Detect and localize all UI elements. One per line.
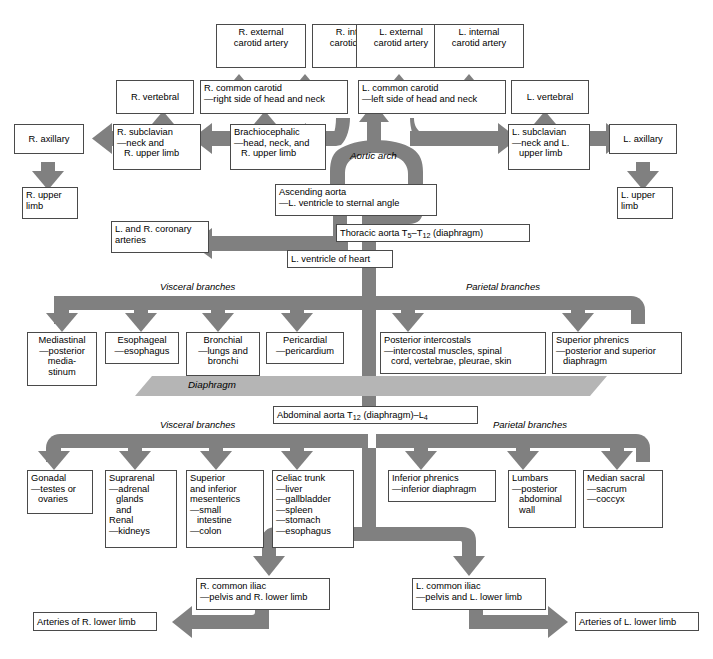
node-lumbars[interactable]: Lumbars —posterior abdominal wall (508, 470, 576, 528)
node-line: —spleen (276, 505, 350, 516)
node-title: R. common carotid (204, 83, 282, 93)
node-title: Arteries of L. lower limb (579, 617, 676, 627)
node-line: and (109, 505, 173, 516)
coronary-arrow-bar (211, 236, 345, 251)
superior-phrenics-arrowhead (562, 313, 594, 332)
bifurcation-to-l-iliac (376, 527, 476, 556)
node-title: Pericardial (283, 335, 327, 345)
node-superior-phrenics[interactable]: Superior phrenics —posterior and superio… (552, 332, 682, 374)
node-line: glands (109, 494, 173, 505)
node-r-common-carotid[interactable]: R. common carotid —right side of head an… (200, 80, 348, 114)
node-l-common-iliac[interactable]: L. common iliac —pelvis and L. lower lim… (412, 578, 546, 610)
node-mediastinal[interactable]: Mediastinal —posterior media- stinum (27, 332, 97, 386)
node-inferior-phrenics[interactable]: Inferior phrenics —inferior diaphragm (388, 470, 496, 502)
node-posterior-intercostals[interactable]: Posterior intercostals —intercostal musc… (380, 332, 546, 374)
median-sacral-arrowhead (601, 451, 633, 470)
node-ascending-aorta[interactable]: Ascending aorta —L. ventricle to sternal… (275, 184, 437, 216)
node-esophageal[interactable]: Esophageal —esophagus (105, 332, 179, 364)
node-title: L. internal (459, 27, 500, 37)
node-r-upper-limb[interactable]: R. upper limb (22, 187, 78, 219)
node-mesenterics[interactable]: Superior and inferior mesenterics —small… (186, 470, 264, 548)
node-l-common-carotid[interactable]: L. common carotid —left side of head and… (358, 80, 506, 114)
node-line: cord, vertebrae, pleurae, skin (384, 356, 542, 367)
node-title: Lumbars (512, 473, 548, 483)
node-r-external-carotid[interactable]: R. external carotid artery (216, 24, 306, 68)
node-thoracic-aorta[interactable]: Thoracic aorta T5–T12 (diaphragm) (336, 224, 530, 242)
node-title: R. axillary (29, 134, 70, 145)
mediastinal-arrowhead (46, 313, 78, 332)
node-line: —intercostal muscles, spinal (384, 346, 542, 357)
node-line: intestine (190, 515, 260, 526)
node-line: stinum (31, 367, 93, 378)
node-line: —L. ventricle to sternal angle (279, 198, 433, 209)
node-line: arteries (115, 235, 205, 246)
inferior-phrenics-arrowhead (405, 451, 437, 470)
node-median-sacral[interactable]: Median sacral —sacrum —coccyx (583, 470, 663, 528)
node-line: —colon (190, 526, 260, 537)
node-line: —liver (276, 484, 350, 495)
node-l-lower-limb-arteries[interactable]: Arteries of L. lower limb (575, 612, 699, 631)
r-iliac-down-stub (255, 610, 269, 629)
node-r-subclavian[interactable]: R. subclavian —neck and R. upper limb (113, 124, 201, 170)
node-line: —small (190, 505, 260, 516)
node-l-vertebral[interactable]: L. vertebral (511, 80, 589, 114)
node-l-axillary[interactable]: L. axillary (609, 124, 677, 154)
node-pericardial[interactable]: Pericardial —pericardium (266, 332, 344, 364)
node-title: Suprarenal (109, 473, 154, 483)
lumbars-arrowhead (507, 451, 539, 470)
label-visceral-branches-abdominal: Visceral branches (160, 419, 235, 430)
node-l-ventricle-of-heart[interactable]: L. ventricle of heart (287, 250, 393, 268)
lsub-to-lax-bar (588, 131, 608, 146)
node-line: —head, neck, and (234, 138, 322, 149)
node-title: Mediastinal (38, 335, 85, 345)
node-coronary-arteries[interactable]: L. and R. coronary arteries (111, 221, 209, 253)
node-title: Inferior phrenics (392, 473, 459, 483)
node-r-vertebral[interactable]: R. vertebral (116, 80, 194, 114)
node-line: —pelvis and L. lower limb (416, 592, 542, 603)
node-line: —pelvis and R. lower limb (200, 592, 326, 603)
node-r-axillary[interactable]: R. axillary (14, 124, 84, 154)
node-title: L. common carotid (362, 83, 438, 93)
rsub-to-rax-arrowhead (92, 123, 112, 154)
node-line: —stomach (276, 515, 350, 526)
celiac-arrowhead (281, 451, 313, 470)
node-title: Arteries of R. lower limb (37, 617, 136, 627)
brachio-to-rsub-bar (210, 131, 230, 146)
label-parietal-branches-thoracic: Parietal branches (466, 281, 540, 292)
node-line: —pericardium (270, 346, 340, 357)
node-gonadal[interactable]: Gonadal —testes or ovaries (27, 470, 93, 514)
node-title: L. subclavian (512, 127, 566, 137)
node-l-upper-limb[interactable]: L. upper limb (617, 187, 673, 219)
node-r-lower-limb-arteries[interactable]: Arteries of R. lower limb (33, 612, 157, 631)
node-title: Bronchial (204, 335, 243, 345)
node-title: R. upper (26, 190, 62, 200)
mesenterics-arrowhead (200, 451, 232, 470)
node-title: Esophageal (117, 335, 166, 345)
node-title: L. and R. coronary (115, 224, 191, 234)
node-l-subclavian[interactable]: L. subclavian —neck and L. upper limb (508, 124, 590, 170)
node-line: wall (512, 505, 572, 516)
esophageal-arrowhead (125, 313, 157, 332)
node-line: bronchi (190, 356, 256, 367)
node-brachiocephalic[interactable]: Brachiocephalic —head, neck, and R. uppe… (230, 124, 326, 170)
node-line: —adrenal (109, 484, 173, 495)
node-line: —left side of head and neck (362, 94, 502, 105)
aorta-column-lower (362, 448, 376, 541)
node-title: Brachiocephalic (234, 127, 300, 137)
label-visceral-branches-thoracic: Visceral branches (160, 281, 235, 292)
node-r-common-iliac[interactable]: R. common iliac —pelvis and R. lower lim… (196, 578, 330, 610)
posterior-intercostals-arrowhead (392, 313, 424, 332)
node-l-external-carotid[interactable]: L. external carotid artery (356, 24, 446, 68)
l-iliac-to-limb-arrowhead (548, 606, 568, 638)
label-parietal-branches-abdominal: Parietal branches (493, 419, 567, 430)
node-bronchial[interactable]: Bronchial —lungs and bronchi (186, 332, 260, 376)
node-title: Median sacral (587, 473, 645, 483)
node-title: Celiac trunk (276, 473, 325, 483)
node-abdominal-aorta[interactable]: Abdominal aorta T12 (diaphragm)–L4 (273, 406, 478, 424)
node-l-internal-carotid[interactable]: L. internal carotid artery (434, 24, 524, 68)
node-line: ovaries (31, 494, 89, 505)
thoracic-parietal-bus-cap (631, 296, 645, 324)
node-celiac-trunk[interactable]: Celiac trunk —liver —gallbladder —spleen… (272, 470, 354, 548)
node-suprarenal[interactable]: Suprarenal —adrenal glands and Renal —ki… (105, 470, 177, 548)
diaphragm-label: Diaphragm (188, 379, 236, 390)
